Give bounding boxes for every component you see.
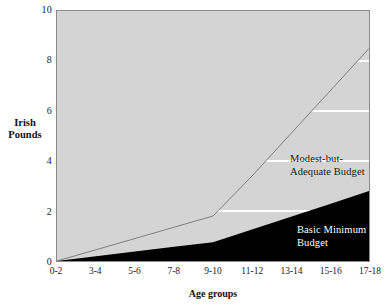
- y-tick-label: 0: [6, 257, 52, 267]
- y-tick-label: 2: [6, 207, 52, 217]
- x-tick-label: 17-18: [359, 266, 381, 277]
- x-axis: 0-23-45-67-89-1011-1213-1415-1617-18: [56, 266, 370, 282]
- x-axis-title: Age groups: [56, 288, 370, 300]
- y-axis-title-line1: Irish Pounds: [8, 117, 41, 140]
- y-tick-label: 8: [6, 55, 52, 65]
- x-tick-label: 15-16: [320, 266, 342, 277]
- y-axis-title: Irish Pounds: [0, 117, 50, 141]
- series-label-modest-but-adequate: Modest-but- Adequate Budget: [290, 152, 365, 178]
- x-tick-label: 11-12: [241, 266, 263, 277]
- x-tick-label: 9-10: [204, 266, 221, 277]
- y-tick-label: 4: [6, 156, 52, 166]
- x-tick-label: 3-4: [89, 266, 102, 277]
- y-tick-label: 10: [6, 5, 52, 15]
- series-label-basic-minimum: Basic Minimum Budget: [297, 223, 366, 249]
- budget-area-chart: 0246810 Irish Pounds Modest-but- Adequat…: [0, 0, 391, 308]
- x-tick-label: 13-14: [280, 266, 302, 277]
- x-tick-label: 0-2: [50, 266, 63, 277]
- x-tick-label: 5-6: [128, 266, 141, 277]
- y-tick-label: 6: [6, 106, 52, 116]
- x-tick-label: 7-8: [167, 266, 180, 277]
